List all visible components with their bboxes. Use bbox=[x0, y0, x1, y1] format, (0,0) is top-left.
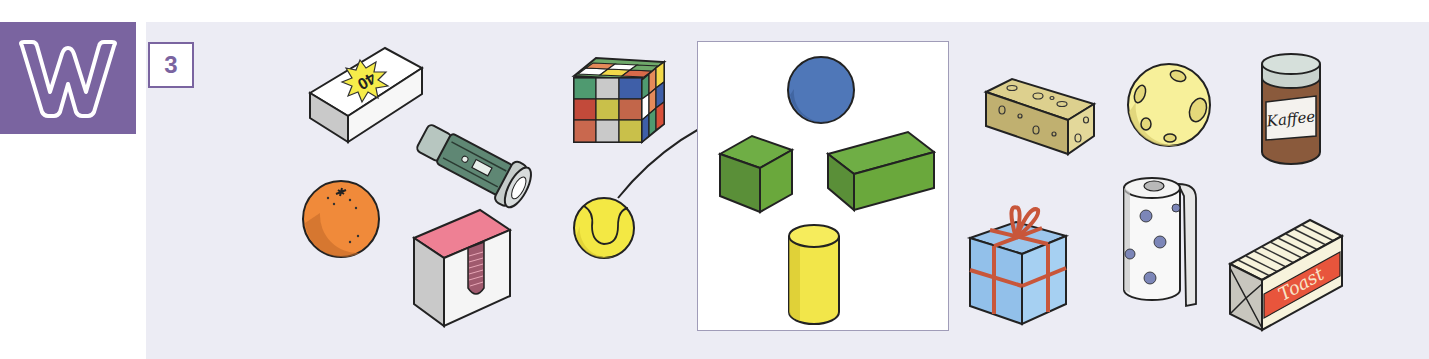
cube-shape[interactable] bbox=[718, 132, 798, 214]
coffee-jar-item[interactable]: Kaffee bbox=[1258, 50, 1324, 168]
rubiks-cube-icon bbox=[568, 54, 668, 146]
w-letter-icon: W bbox=[14, 36, 122, 120]
paper-towel-roll-icon bbox=[1120, 172, 1204, 312]
tennis-ball-item[interactable] bbox=[572, 196, 636, 260]
ball-item[interactable] bbox=[1126, 62, 1212, 148]
rubiks-cube-item[interactable] bbox=[568, 54, 668, 146]
matchbox-item[interactable]: 40 bbox=[300, 38, 430, 148]
flashlight-icon bbox=[412, 118, 542, 213]
ball-icon bbox=[1126, 62, 1212, 148]
gift-box-icon bbox=[966, 200, 1072, 330]
matchbox-icon: 40 bbox=[300, 38, 430, 148]
sticky-note-cube-item[interactable] bbox=[410, 208, 520, 330]
sticky-note-cube-icon bbox=[410, 208, 520, 330]
orange-icon bbox=[300, 178, 382, 260]
toast-bread-item[interactable]: Toast bbox=[1226, 214, 1346, 334]
sponge-icon bbox=[982, 76, 1098, 158]
gift-box-item[interactable] bbox=[966, 200, 1072, 330]
cube-icon bbox=[718, 132, 798, 214]
cylinder-icon bbox=[786, 222, 842, 326]
toast-bread-icon: Toast bbox=[1226, 214, 1346, 334]
cuboid-icon bbox=[826, 130, 938, 214]
tennis-ball-icon bbox=[572, 196, 636, 260]
flashlight-item[interactable] bbox=[412, 118, 542, 213]
cuboid-shape[interactable] bbox=[826, 130, 938, 214]
orange-item[interactable] bbox=[300, 178, 382, 260]
cylinder-shape[interactable] bbox=[786, 222, 842, 326]
section-badge: W bbox=[0, 22, 136, 134]
paper-towel-roll-item[interactable] bbox=[1120, 172, 1204, 312]
exercise-number: 3 bbox=[148, 42, 194, 88]
coffee-jar-icon: Kaffee bbox=[1258, 50, 1324, 168]
sphere-icon bbox=[786, 55, 856, 125]
sponge-item[interactable] bbox=[982, 76, 1098, 158]
sphere-shape[interactable] bbox=[786, 55, 856, 125]
